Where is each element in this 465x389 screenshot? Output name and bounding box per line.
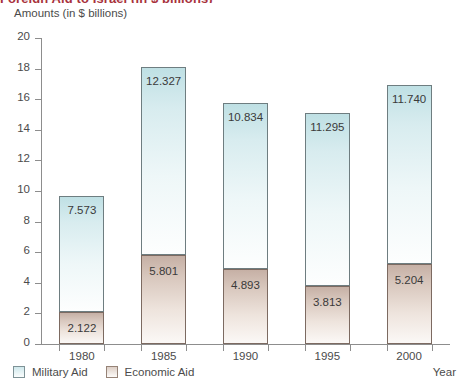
y-axis-tick: 4 [35, 283, 41, 284]
military-aid-swatch-icon [13, 366, 25, 378]
x-axis-label-1995: 1995 [286, 350, 368, 362]
bar-value-label: 5.204 [388, 274, 431, 286]
y-axis-tick-label: 18 [17, 61, 30, 73]
bar-value-label: 4.893 [224, 279, 267, 291]
x-axis-label-1980: 1980 [41, 350, 123, 362]
y-axis-tick-label: 8 [24, 214, 30, 226]
bar-segment-military-1995[interactable]: 11.295 [305, 113, 350, 286]
legend-label-economic: Economic Aid [125, 366, 195, 378]
y-axis-tick: 8 [35, 222, 41, 223]
y-axis-tick: 12 [35, 160, 41, 161]
x-axis-label-1990: 1990 [205, 350, 287, 362]
bar-value-label: 10.834 [224, 111, 267, 123]
bar-segment-economic-1990[interactable]: 4.893 [223, 269, 268, 344]
y-axis-tick-label: 0 [24, 336, 30, 348]
bar-2000[interactable]: 5.20411.740 [387, 38, 432, 344]
bar-value-label: 2.122 [60, 322, 103, 334]
x-axis-caption: Year [433, 366, 456, 378]
chart-legend: Military Aid Economic Aid [13, 366, 203, 378]
y-axis-tick: 2 [35, 313, 41, 314]
y-axis-tick: 18 [35, 69, 41, 70]
y-axis-tick: 10 [35, 191, 41, 192]
bar-segment-economic-1985[interactable]: 5.801 [141, 255, 186, 344]
y-axis-tick: 20 [35, 38, 41, 39]
economic-aid-swatch-icon [106, 366, 118, 378]
y-axis-tick: 16 [35, 99, 41, 100]
x-axis-label-1985: 1985 [123, 350, 205, 362]
chart-title-clipped: Foreign Aid to Israel (in $ billions) [0, 0, 465, 3]
legend-label-military: Military Aid [32, 366, 88, 378]
y-axis-tick-label: 10 [17, 183, 30, 195]
y-axis-line [41, 38, 42, 344]
bar-segment-military-2000[interactable]: 11.740 [387, 85, 432, 265]
bar-1985[interactable]: 5.80112.327 [141, 38, 186, 344]
y-axis-tick-label: 4 [24, 275, 30, 287]
bar-segment-economic-1980[interactable]: 2.122 [59, 312, 104, 344]
y-axis-tick-label: 12 [17, 152, 30, 164]
y-axis-tick: 14 [35, 130, 41, 131]
bar-1980[interactable]: 2.1227.573 [59, 38, 104, 344]
bar-segment-economic-1995[interactable]: 3.813 [305, 286, 350, 344]
y-axis-tick-label: 16 [17, 91, 30, 103]
x-axis-line [41, 344, 450, 345]
y-axis-tick-label: 20 [17, 30, 30, 42]
bar-value-label: 12.327 [142, 75, 185, 87]
bar-value-label: 11.740 [388, 93, 431, 105]
y-axis-tick-label: 2 [24, 305, 30, 317]
bar-segment-military-1985[interactable]: 12.327 [141, 67, 186, 256]
bar-segment-economic-2000[interactable]: 5.204 [387, 264, 432, 344]
chart-page: Foreign Aid to Israel (in $ billions) Am… [0, 0, 465, 389]
bar-value-label: 11.295 [306, 121, 349, 133]
y-axis-tick: 0 [35, 344, 41, 345]
bar-segment-military-1990[interactable]: 10.834 [223, 103, 268, 269]
y-axis-tick-label: 6 [24, 244, 30, 256]
bar-value-label: 7.573 [60, 204, 103, 216]
y-axis-caption: Amounts (in $ billions) [14, 7, 127, 19]
bar-1990[interactable]: 4.89310.834 [223, 38, 268, 344]
bar-value-label: 3.813 [306, 296, 349, 308]
bar-segment-military-1980[interactable]: 7.573 [59, 196, 104, 312]
x-axis-label-2000: 2000 [368, 350, 450, 362]
y-axis-tick: 6 [35, 252, 41, 253]
legend-item-military: Military Aid [13, 366, 88, 378]
plot-area: 024681012141618202.1227.57319805.80112.3… [41, 38, 450, 344]
y-axis-tick-label: 14 [17, 122, 30, 134]
legend-item-economic: Economic Aid [106, 366, 195, 378]
bar-1995[interactable]: 3.81311.295 [305, 38, 350, 344]
bar-value-label: 5.801 [142, 265, 185, 277]
